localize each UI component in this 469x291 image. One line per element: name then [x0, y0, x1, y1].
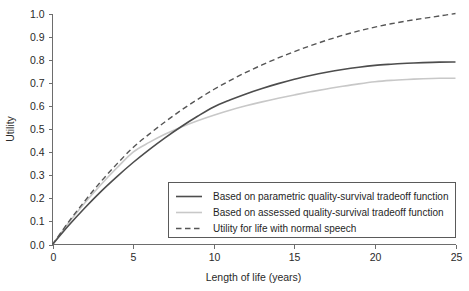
- line-chart: 0.00.10.20.30.40.50.60.70.80.91.0 051015…: [0, 0, 469, 291]
- y-tick-label: 0.8: [30, 54, 45, 66]
- legend-label-2: Utility for life with normal speech: [213, 223, 356, 234]
- y-tick-label: 0.5: [30, 123, 45, 135]
- chart-legend: Based on parametric quality-survival tra…: [169, 183, 456, 238]
- y-tick-label: 0.0: [30, 239, 45, 251]
- legend-label-1: Based on assessed quality-survival trade…: [213, 207, 444, 218]
- y-tick-label: 1.0: [30, 8, 45, 20]
- chart-figure: 0.00.10.20.30.40.50.60.70.80.91.0 051015…: [0, 0, 469, 291]
- y-axis-title: Utility: [4, 115, 16, 141]
- x-axis-title: Length of life (years): [206, 271, 302, 283]
- y-tick-label: 0.9: [30, 31, 45, 43]
- x-tick-label: 5: [131, 251, 137, 263]
- x-tick-label: 10: [209, 251, 221, 263]
- y-tick-label: 0.2: [30, 192, 45, 204]
- x-tick-label: 20: [370, 251, 382, 263]
- x-axis-tick-group: 0510152025: [51, 245, 463, 263]
- x-tick-label: 0: [51, 251, 57, 263]
- y-tick-label: 0.6: [30, 100, 45, 112]
- legend-label-0: Based on parametric quality-survival tra…: [213, 191, 449, 202]
- x-tick-label: 25: [451, 251, 463, 263]
- x-tick-label: 15: [289, 251, 301, 263]
- y-tick-label: 0.3: [30, 169, 45, 181]
- y-tick-label: 0.7: [30, 77, 45, 89]
- y-tick-label: 0.1: [30, 215, 45, 227]
- y-tick-label: 0.4: [30, 146, 45, 158]
- y-axis-tick-group: 0.00.10.20.30.40.50.60.70.80.91.0: [30, 8, 53, 251]
